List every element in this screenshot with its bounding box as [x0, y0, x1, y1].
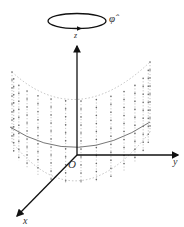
grid-point: [13, 126, 15, 128]
grid-point: [50, 146, 52, 148]
grid-point: [147, 85, 149, 87]
origin-label: O: [68, 158, 76, 170]
grid-point: [80, 108, 82, 110]
grid-point: [142, 101, 144, 103]
grid-point: [37, 135, 39, 137]
grid-point: [18, 85, 20, 87]
grid-point: [149, 109, 151, 111]
grid-point: [37, 127, 39, 129]
grid-point: [50, 162, 52, 164]
grid-point: [50, 106, 52, 108]
grid-point: [149, 125, 151, 127]
grid-point: [96, 147, 98, 149]
grid-point: [18, 125, 20, 127]
grid-point: [80, 140, 82, 142]
grid-point: [80, 172, 82, 174]
grid-point: [65, 124, 67, 126]
grid-point: [50, 178, 52, 180]
grid-point: [123, 163, 125, 165]
grid-point: [123, 123, 125, 125]
grid-point: [18, 109, 20, 111]
grid-point: [123, 139, 125, 141]
grid-point: [50, 122, 52, 124]
grid-point: [26, 138, 28, 140]
grid-point: [50, 170, 52, 172]
grid-point: [134, 117, 136, 119]
grid-point: [65, 140, 67, 142]
grid-point: [142, 77, 144, 79]
grid-point: [123, 131, 125, 133]
grid-point: [11, 95, 13, 97]
grid-point: [142, 141, 144, 143]
grid-point: [80, 116, 82, 118]
grid-point: [96, 163, 98, 165]
grid-point: [50, 138, 52, 140]
grid-point: [11, 111, 13, 113]
grid-point: [149, 101, 151, 103]
grid-point: [11, 119, 13, 121]
grid-point: [110, 95, 112, 97]
grid-point: [149, 77, 151, 79]
grid-point: [149, 117, 151, 119]
grid-point: [50, 98, 52, 100]
grid-point: [80, 132, 82, 134]
cylinder-surface-grid: [11, 61, 151, 183]
grid-point: [96, 139, 98, 141]
grid-point: [96, 131, 98, 133]
grid-point: [134, 125, 136, 127]
grid-point: [26, 90, 28, 92]
grid-point: [123, 115, 125, 117]
grid-point: [80, 156, 82, 158]
grid-point: [26, 146, 28, 148]
z-axis-label: z: [73, 31, 78, 40]
grid-point: [13, 94, 15, 96]
grid-point: [18, 117, 20, 119]
grid-point: [65, 116, 67, 118]
grid-point: [13, 78, 15, 80]
grid-point: [142, 85, 144, 87]
grid-point: [80, 148, 82, 150]
grid-point: [96, 123, 98, 125]
grid-point: [11, 79, 13, 81]
grid-point: [26, 122, 28, 124]
grid-point: [96, 179, 98, 181]
grid-point: [37, 159, 39, 161]
grid-point: [123, 99, 125, 101]
grid-point: [37, 151, 39, 153]
grid-point: [11, 103, 13, 105]
grid-point: [147, 101, 149, 103]
grid-point: [149, 93, 151, 95]
grid-point: [65, 108, 67, 110]
y-axis-label: y: [172, 156, 178, 167]
grid-point: [80, 164, 82, 166]
grid-point: [13, 86, 15, 88]
grid-point: [134, 133, 136, 135]
grid-point: [147, 69, 149, 71]
grid-point: [96, 107, 98, 109]
surface-arc-curve: [10, 122, 150, 147]
grid-point: [26, 130, 28, 132]
grid-point: [11, 135, 13, 137]
grid-point: [110, 151, 112, 153]
grid-point: [142, 93, 144, 95]
grid-point: [65, 132, 67, 134]
grid-point: [147, 125, 149, 127]
grid-point: [37, 143, 39, 145]
grid-point: [147, 141, 149, 143]
grid-point: [13, 102, 15, 104]
loop-direction-arrow-icon: [77, 26, 82, 30]
grid-point: [147, 109, 149, 111]
grid-point: [96, 171, 98, 173]
grid-point: [26, 98, 28, 100]
grid-point: [110, 103, 112, 105]
grid-point: [134, 93, 136, 95]
grid-point: [142, 149, 144, 151]
grid-point: [142, 109, 144, 111]
grid-point: [37, 119, 39, 121]
grid-point: [18, 149, 20, 151]
grid-point: [65, 148, 67, 150]
grid-point: [65, 156, 67, 158]
grid-point: [149, 85, 151, 87]
grid-point: [13, 142, 15, 144]
grid-point: [134, 157, 136, 159]
